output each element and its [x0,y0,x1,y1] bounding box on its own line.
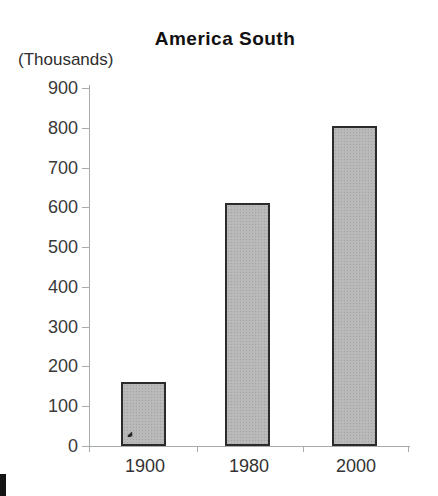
chart-title: America South [120,28,330,50]
y-tick-mark [82,168,89,169]
y-tick-row: 100 [0,395,89,417]
x-category-label: 2000 [321,456,391,477]
y-tick-label: 0 [68,436,78,457]
scan-artifact-corner [0,474,6,496]
x-category-label: 1900 [110,456,180,477]
y-tick-label: 900 [48,78,78,99]
x-tick-mark [89,446,90,452]
y-tick-label: 200 [48,356,78,377]
y-tick-mark [82,207,89,208]
bar-2000 [332,126,377,446]
y-tick-row: 600 [0,196,89,218]
y-tick-label: 500 [48,237,78,258]
y-tick-row: 0 [0,435,89,457]
x-tick-mark [303,446,304,452]
y-tick-row: 800 [0,117,89,139]
y-tick-mark [82,247,89,248]
y-tick-mark [82,88,89,89]
y-tick-row: 200 [0,355,89,377]
y-tick-mark [82,327,89,328]
y-tick-label: 800 [48,118,78,139]
y-tick-mark [82,366,89,367]
y-tick-row: 400 [0,276,89,298]
chart-page: America South (Thousands) 900 800 700 60… [0,0,438,496]
y-tick-label: 100 [48,396,78,417]
y-tick-row: 700 [0,157,89,179]
y-tick-row: 300 [0,316,89,338]
x-tick-mark [408,446,409,452]
y-tick-mark [82,406,89,407]
x-tick-mark [197,446,198,452]
y-tick-label: 400 [48,277,78,298]
x-axis-line [85,446,410,447]
y-axis-line [89,85,90,446]
y-tick-row: 900 [0,77,89,99]
bar-1980 [225,203,270,446]
y-tick-mark [82,128,89,129]
y-tick-mark [82,287,89,288]
y-tick-row: 500 [0,236,89,258]
y-tick-label: 600 [48,197,78,218]
y-axis-units-label: (Thousands) [18,50,113,70]
y-tick-label: 700 [48,158,78,179]
x-category-label: 1980 [214,456,284,477]
y-tick-label: 300 [48,317,78,338]
